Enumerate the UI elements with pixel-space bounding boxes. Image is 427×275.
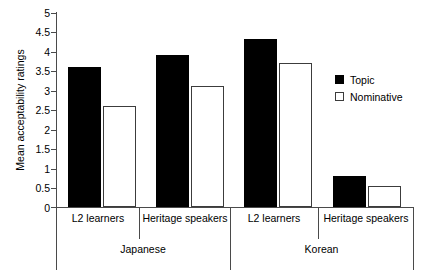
filled-square-icon — [335, 75, 344, 84]
y-tick-label: 2.5 — [24, 105, 50, 115]
bar-nominative-korean-heritage — [368, 186, 401, 207]
axis-separator — [56, 208, 57, 270]
y-tick-label: 0 — [24, 203, 50, 213]
legend-label-topic: Topic — [350, 74, 375, 86]
bar-topic-korean-heritage — [333, 176, 366, 207]
y-tick-label: 1.5 — [24, 144, 50, 154]
bar-topic-korean-l2 — [244, 39, 277, 207]
y-axis-tick-labels: 5 4.5 4 3.5 3 2.5 2 1.5 1 0.5 0 — [20, 0, 50, 275]
x-axis-line — [56, 207, 414, 208]
bar-nominative-korean-l2 — [279, 63, 312, 207]
y-tick-label: 5 — [24, 8, 50, 18]
y-tick-label: 0.5 — [24, 183, 50, 193]
bar-nominative-japanese-heritage — [191, 86, 224, 207]
y-tick-label: 4 — [24, 47, 50, 57]
bar-topic-japanese-heritage — [156, 55, 189, 207]
axis-separator — [230, 208, 231, 270]
legend: Topic Nominative — [335, 72, 403, 106]
y-tick-label: 4.5 — [24, 27, 50, 37]
bar-nominative-japanese-l2 — [103, 106, 136, 207]
legend-item-topic: Topic — [335, 72, 403, 87]
axis-separator — [139, 208, 140, 239]
x-category-label-korean-heritage: Heritage speakers — [320, 212, 412, 224]
axis-separator — [318, 208, 319, 239]
y-tick-label: 3 — [24, 86, 50, 96]
axis-separator — [413, 208, 414, 270]
x-group-label-japanese: Japanese — [56, 243, 230, 255]
y-tick-label: 3.5 — [24, 66, 50, 76]
legend-item-nominative: Nominative — [335, 89, 403, 104]
bar-chart: Mean acceptability ratings 5 4.5 4 3.5 3… — [0, 0, 427, 275]
legend-label-nominative: Nominative — [350, 91, 403, 103]
y-tick-label: 2 — [24, 125, 50, 135]
plot-area — [56, 12, 414, 207]
x-category-label-korean-l2: L2 learners — [232, 212, 316, 224]
x-category-label-japanese-heritage: Heritage speakers — [142, 212, 228, 224]
x-group-label-korean: Korean — [230, 243, 413, 255]
x-category-label-japanese-l2: L2 learners — [58, 212, 138, 224]
bar-topic-japanese-l2 — [68, 67, 101, 207]
y-tick-label: 1 — [24, 164, 50, 174]
open-square-icon — [335, 92, 344, 101]
